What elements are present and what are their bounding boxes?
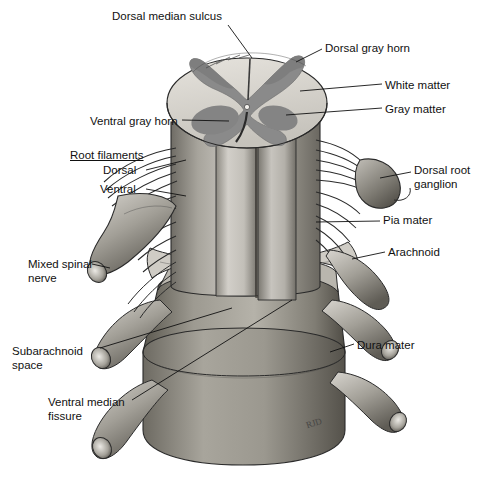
- label-dura-mater: Dura mater: [357, 339, 415, 353]
- dorsal-root-ganglion-body: [355, 159, 410, 208]
- label-subarachnoid-space: Subarachnoid space: [12, 345, 83, 372]
- spinal-cord-cross-section: [167, 53, 327, 148]
- anatomy-figure: Dorsal median sulcus Dorsal gray horn Wh…: [0, 0, 483, 489]
- label-root-filaments-ventral: Ventral: [100, 183, 136, 197]
- label-root-filaments: Root filaments: [70, 149, 144, 163]
- label-dorsal-median-sulcus: Dorsal median sulcus: [112, 10, 222, 24]
- label-white-matter: White matter: [385, 79, 450, 93]
- label-mixed-spinal-nerve: Mixed spinal nerve: [28, 258, 92, 285]
- label-dorsal-root-ganglion: Dorsal root ganglion: [414, 164, 470, 191]
- dura-mater-sheath: [143, 326, 345, 465]
- label-gray-matter: Gray matter: [385, 103, 446, 117]
- label-ventral-median-fissure: Ventral median fissure: [48, 396, 125, 423]
- label-ventral-gray-horn: Ventral gray horn: [90, 115, 178, 129]
- label-root-filaments-dorsal: Dorsal: [103, 164, 136, 178]
- label-arachnoid: Arachnoid: [388, 246, 440, 260]
- label-dorsal-gray-horn: Dorsal gray horn: [325, 42, 410, 56]
- label-pia-mater: Pia mater: [383, 214, 432, 228]
- central-canal: [244, 104, 249, 109]
